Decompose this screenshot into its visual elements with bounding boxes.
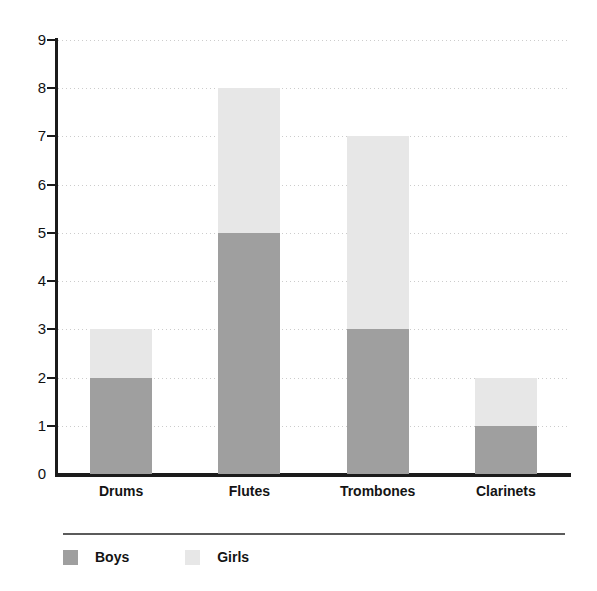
bar-group[interactable] — [475, 378, 537, 474]
category-label: Trombones — [314, 483, 442, 499]
y-tick-label-wrap: 1 — [10, 418, 46, 433]
bar-segment-boys[interactable] — [475, 426, 537, 474]
y-tick-label-wrap: 6 — [10, 177, 46, 192]
category-label: Clarinets — [442, 483, 570, 499]
bar-segment-boys[interactable] — [90, 378, 152, 474]
y-tick-label-wrap: 8 — [10, 80, 46, 95]
chart-legend: BoysGirls — [63, 546, 249, 568]
y-tick-label-wrap: 0 — [10, 466, 46, 481]
bar-group[interactable] — [347, 136, 409, 474]
y-tick-label: 8 — [24, 80, 46, 95]
legend-swatch-boys — [63, 550, 78, 565]
y-tick-label: 6 — [24, 177, 46, 192]
bar-segment-girls[interactable] — [347, 136, 409, 329]
y-tick-label-wrap: 2 — [10, 370, 46, 385]
legend-gap — [129, 557, 185, 558]
y-tick-label: 2 — [24, 370, 46, 385]
legend-item-boys[interactable]: Boys — [63, 549, 129, 565]
y-tick-label-wrap: 4 — [10, 273, 46, 288]
bar-segment-boys[interactable] — [347, 329, 409, 474]
y-tick-label-wrap: 7 — [10, 128, 46, 143]
bar-segment-boys[interactable] — [218, 233, 280, 474]
bar-group[interactable] — [218, 88, 280, 474]
y-tick-label-wrap: 9 — [10, 32, 46, 47]
plot-area — [57, 40, 570, 474]
y-tick-label: 1 — [24, 418, 46, 433]
bar-segment-girls[interactable] — [218, 88, 280, 233]
category-label: Drums — [57, 483, 185, 499]
bar-segment-girls[interactable] — [475, 378, 537, 426]
y-tick-label: 0 — [24, 466, 46, 481]
legend-separator — [63, 533, 565, 535]
y-tick-label: 7 — [24, 128, 46, 143]
stacked-bar-chart: 9876543210 DrumsFlutesTrombonesClarinets… — [0, 0, 597, 591]
legend-label: Girls — [217, 549, 249, 565]
bar-group[interactable] — [90, 329, 152, 474]
y-tick-label-wrap: 3 — [10, 321, 46, 336]
y-tick-label: 9 — [24, 32, 46, 47]
y-tick-label: 3 — [24, 321, 46, 336]
legend-swatch-girls — [185, 550, 200, 565]
y-tick-label: 4 — [24, 273, 46, 288]
bar-segment-girls[interactable] — [90, 329, 152, 377]
category-label: Flutes — [185, 483, 313, 499]
legend-item-girls[interactable]: Girls — [185, 549, 249, 565]
legend-label: Boys — [95, 549, 129, 565]
y-tick-label-wrap: 5 — [10, 225, 46, 240]
y-tick-label: 5 — [24, 225, 46, 240]
